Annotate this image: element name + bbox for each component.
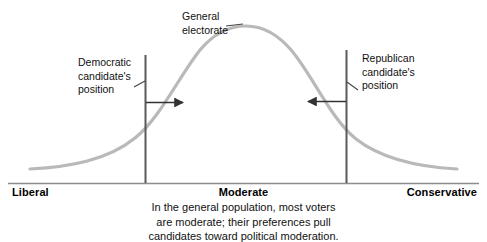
democratic-position-leader-line [134, 81, 145, 87]
republican-candidate-position-label: Republican candidate's position [362, 52, 415, 93]
republican-position-leader-line [347, 82, 358, 90]
general-electorate-label: General electorate [182, 10, 228, 37]
axis-label-conservative: Conservative [407, 186, 477, 198]
general-electorate-curve [30, 26, 457, 169]
democratic-candidate-position-label: Democratic candidate's position [78, 56, 131, 97]
figure-caption: In the general population, most voters a… [0, 200, 487, 242]
political-spectrum-figure: General electorate Democratic candidate'… [0, 0, 487, 242]
